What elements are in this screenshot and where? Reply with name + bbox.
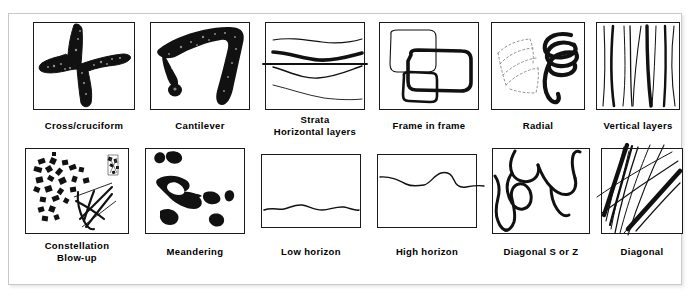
diagram-cell-radial: Radial	[485, 22, 591, 148]
diagram-cell-high-horizon: High horizon	[369, 148, 485, 274]
diagram-row-top: Cross/cruciform	[9, 22, 681, 148]
caption-cross-cruciform: Cross/cruciform	[25, 120, 143, 132]
diagram-cell-frame-in-frame: Frame in frame	[373, 22, 485, 148]
caption-constellation: Constellation Blow-up	[17, 240, 137, 263]
sketch-constellation-blow-up	[25, 148, 129, 234]
sketch-radial	[491, 22, 585, 110]
caption-high-horizon: High horizon	[369, 246, 485, 258]
caption-frame-in-frame: Frame in frame	[373, 120, 485, 132]
caption-strata: Strata Horizontal layers	[257, 114, 373, 137]
sketch-low-horizon	[261, 154, 361, 228]
sketch-cantilever	[150, 22, 250, 110]
sketch-strata-horizontal-layers	[265, 22, 365, 110]
sketch-vertical-layers	[596, 22, 680, 110]
caption-diagonal: Diagonal	[597, 246, 687, 258]
caption-low-horizon: Low horizon	[253, 246, 369, 258]
diagram-row-bottom: Constellation Blow-up	[9, 148, 681, 274]
caption-meandering: Meandering	[137, 246, 253, 258]
figure-sheet: Cross/cruciform	[8, 13, 682, 285]
diagram-cell-diagonal: Diagonal	[597, 148, 687, 274]
caption-diagonal-s-or-z: Diagonal S or Z	[485, 246, 597, 258]
diagram-cell-strata: Strata Horizontal layers	[257, 22, 373, 148]
diagram-cell-cantilever: Cantilever	[143, 22, 257, 148]
caption-cantilever: Cantilever	[143, 120, 257, 132]
diagram-cell-diagonal-s-or-z: Diagonal S or Z	[485, 148, 597, 274]
diagram-cell-vertical-layers: Vertical layers	[591, 22, 685, 148]
sketch-meandering	[145, 148, 245, 234]
caption-radial: Radial	[485, 120, 591, 132]
diagram-cell-cross-cruciform: Cross/cruciform	[25, 22, 143, 148]
caption-constellation-line-1: Constellation	[45, 240, 110, 251]
sketch-frame-in-frame	[379, 22, 479, 110]
caption-constellation-line-2: Blow-up	[57, 252, 97, 263]
diagram-cell-meandering: Meandering	[137, 148, 253, 274]
caption-vertical-layers: Vertical layers	[591, 120, 685, 132]
figure-page: Cross/cruciform	[0, 0, 698, 306]
sketch-diagonal-s-or-z	[492, 148, 590, 234]
sketch-cross-cruciform	[33, 22, 135, 110]
diagram-cell-constellation: Constellation Blow-up	[17, 148, 137, 274]
caption-strata-line-2: Horizontal layers	[274, 126, 357, 137]
sketch-diagonal	[601, 148, 683, 234]
caption-strata-line-1: Strata	[300, 114, 329, 125]
sketch-high-horizon	[377, 154, 477, 228]
diagram-cell-low-horizon: Low horizon	[253, 148, 369, 274]
